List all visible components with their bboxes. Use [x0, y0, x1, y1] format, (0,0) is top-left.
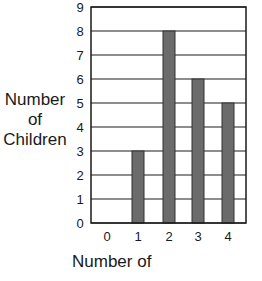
x-tick-label: 0: [103, 229, 110, 244]
x-tick-label: 4: [224, 229, 231, 244]
y-tick-label: 2: [76, 168, 83, 183]
x-tick-label: 1: [134, 229, 141, 244]
y-tick-label: 5: [76, 96, 83, 111]
y-tick-label: 9: [76, 0, 83, 15]
y-tick-label: 7: [76, 48, 83, 63]
y-tick-label: 3: [76, 144, 83, 159]
x-axis-label: Number of: [72, 252, 151, 272]
y-tick-label: 0: [76, 216, 83, 231]
bar: [163, 31, 175, 223]
y-tick-label: 6: [76, 72, 83, 87]
x-tick-label: 2: [165, 229, 172, 244]
y-tick-label: 8: [76, 24, 83, 39]
bar: [132, 151, 144, 223]
bar: [222, 103, 234, 223]
y-tick-label: 4: [76, 120, 83, 135]
y-tick-label: 1: [76, 192, 83, 207]
bar-chart: 012345678901234: [0, 0, 262, 281]
x-tick-label: 3: [194, 229, 201, 244]
bar: [192, 79, 204, 223]
